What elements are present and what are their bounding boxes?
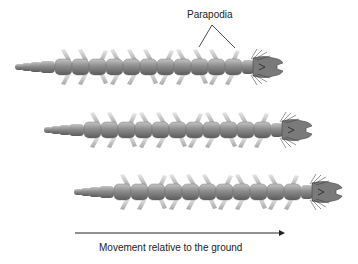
- parapodia-callout-lines: [199, 25, 235, 48]
- worm-diagram: [0, 0, 358, 264]
- parapodia-label: Parapodia: [187, 9, 233, 20]
- worm-2: [44, 112, 312, 148]
- worm-3: [74, 174, 342, 210]
- arrow-caption: Movement relative to the ground: [99, 242, 242, 253]
- movement-arrow: [75, 230, 285, 236]
- worm-1: [15, 49, 283, 85]
